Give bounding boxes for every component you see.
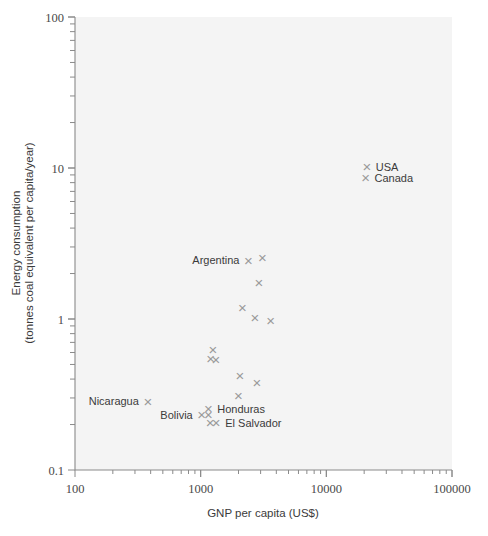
data-point-marker: × (361, 169, 370, 186)
y-axis-tick-labels: 0.1110100 (45, 11, 64, 478)
y-tick-label: 10 (52, 162, 65, 176)
data-point-marker: × (206, 414, 215, 431)
x-axis-title: GNP per capita (US$) (207, 507, 319, 519)
data-point-label: Bolivia (160, 409, 193, 421)
data-point-marker: × (244, 252, 253, 269)
data-point-label: El Salvador (225, 417, 282, 429)
data-point-label: Honduras (217, 403, 265, 415)
data-point-marker: × (143, 393, 152, 410)
x-axis-tick-labels: 100100010000100000 (66, 482, 471, 496)
energy-gnp-scatter-chart: 100100010000100000 0.1110100 ×××××××××××… (0, 0, 488, 536)
y-axis-title-line2: (tonnes coal equivalent per capita/year) (23, 142, 35, 344)
data-point-marker: × (238, 299, 247, 316)
x-tick-label: 10000 (311, 482, 342, 496)
y-axis-title-line1: Energy consumption (10, 191, 22, 296)
y-tick-label: 0.1 (48, 464, 64, 478)
chart-canvas: 100100010000100000 0.1110100 ×××××××××××… (0, 0, 488, 536)
y-tick-label: 100 (45, 11, 64, 25)
data-point-marker: × (235, 367, 244, 384)
data-point-marker: × (254, 274, 263, 291)
data-point-marker: × (250, 309, 259, 326)
data-point-label: Argentina (192, 254, 240, 266)
data-point-label: Canada (375, 172, 414, 184)
x-tick-label: 100000 (433, 482, 471, 496)
data-point-marker: × (266, 312, 275, 329)
x-tick-label: 100 (66, 482, 85, 496)
data-point-marker: × (258, 249, 267, 266)
data-point-marker: × (211, 351, 220, 368)
x-tick-label: 1000 (188, 482, 213, 496)
data-point-label: USA (376, 161, 399, 173)
data-point-label: Nicaragua (89, 395, 140, 407)
data-point-marker: × (252, 374, 261, 391)
y-tick-label: 1 (58, 313, 64, 327)
